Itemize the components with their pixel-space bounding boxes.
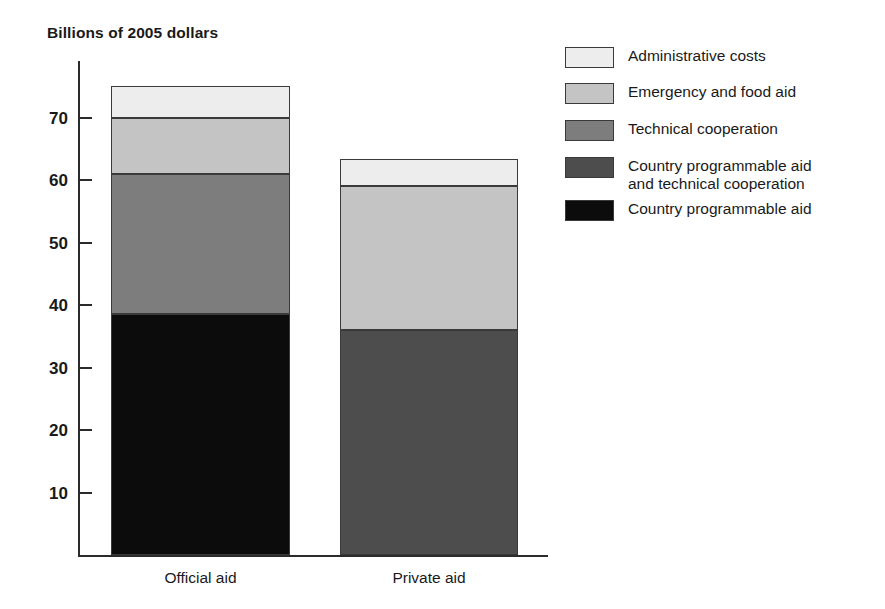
y-tick-label-20: 20 <box>49 422 68 439</box>
legend-item-country-programmable-aid[interactable]: Country programmable aid <box>565 200 812 221</box>
bar-segment-country-programmable-aid-and-technical-cooperation[interactable] <box>340 330 518 555</box>
y-tick-label-60: 60 <box>49 172 68 189</box>
legend-item-technical-cooperation[interactable]: Technical cooperation <box>565 120 778 141</box>
x-axis-line <box>78 555 548 557</box>
bar-segment-administrative-costs[interactable] <box>340 159 518 187</box>
legend-label-technical-cooperation: Technical cooperation <box>628 120 778 138</box>
y-axis-line <box>78 61 80 557</box>
y-tick-30: 30 <box>80 367 92 369</box>
bar-official-aid[interactable]: Official aid <box>111 86 290 555</box>
bar-segment-emergency-and-food-aid[interactable] <box>340 186 518 330</box>
plot-area: 10203040506070 Official aidPrivate aid <box>78 61 548 557</box>
bar-segment-emergency-and-food-aid[interactable] <box>111 118 290 174</box>
legend-swatch-emergency-and-food-aid <box>565 83 614 104</box>
x-axis-label-private-aid: Private aid <box>392 569 465 587</box>
legend-label-country-programmable-aid: Country programmable aid <box>628 200 812 218</box>
legend-item-country-programmable-aid-and-technical-cooperation[interactable]: Country programmable aid and technical c… <box>565 157 812 193</box>
bar-segment-administrative-costs[interactable] <box>111 86 290 117</box>
bar-segment-country-programmable-aid[interactable] <box>111 314 290 555</box>
y-tick-40: 40 <box>80 304 92 306</box>
legend-swatch-country-programmable-aid-and-technical-cooperation <box>565 157 614 178</box>
legend-label-country-programmable-aid-and-technical-cooperation: Country programmable aid and technical c… <box>628 157 812 193</box>
legend-item-administrative-costs[interactable]: Administrative costs <box>565 47 766 68</box>
y-tick-50: 50 <box>80 242 92 244</box>
bar-private-aid[interactable]: Private aid <box>340 159 518 555</box>
axis-unit-note: Billions of 2005 dollars <box>47 24 218 42</box>
x-axis-label-official-aid: Official aid <box>164 569 236 587</box>
y-tick-60: 60 <box>80 179 92 181</box>
chart-figure: Billions of 2005 dollars 10203040506070 … <box>0 0 885 609</box>
y-tick-label-10: 10 <box>49 484 68 501</box>
y-tick-label-70: 70 <box>49 109 68 126</box>
y-tick-label-50: 50 <box>49 234 68 251</box>
y-tick-10: 10 <box>80 492 92 494</box>
legend-swatch-technical-cooperation <box>565 120 614 141</box>
legend-swatch-administrative-costs <box>565 47 614 68</box>
legend-label-administrative-costs: Administrative costs <box>628 47 766 65</box>
y-tick-20: 20 <box>80 429 92 431</box>
bar-segment-technical-cooperation[interactable] <box>111 174 290 315</box>
legend-swatch-country-programmable-aid <box>565 200 614 221</box>
y-tick-70: 70 <box>80 117 92 119</box>
y-tick-label-30: 30 <box>49 359 68 376</box>
y-tick-label-40: 40 <box>49 297 68 314</box>
legend-label-emergency-and-food-aid: Emergency and food aid <box>628 83 796 101</box>
legend-item-emergency-and-food-aid[interactable]: Emergency and food aid <box>565 83 796 104</box>
